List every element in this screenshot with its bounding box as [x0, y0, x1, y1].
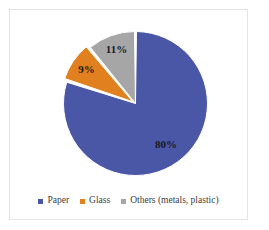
- pie-data-label-glass: 9%: [78, 63, 95, 75]
- pie-chart-figure: 80%9%11% Paper Glass Others (metals, pla…: [0, 0, 269, 230]
- pie-slice-group: [63, 32, 207, 176]
- legend-item-paper[interactable]: Paper: [38, 196, 69, 206]
- legend-label-paper: Paper: [47, 196, 69, 206]
- legend-label-glass: Glass: [89, 196, 110, 206]
- legend-swatch-glass: [80, 199, 85, 204]
- legend-item-glass[interactable]: Glass: [80, 196, 110, 206]
- legend-swatch-others: [121, 199, 126, 204]
- chart-legend: Paper Glass Others (metals, plastic): [9, 193, 248, 209]
- legend-item-others[interactable]: Others (metals, plastic): [121, 196, 218, 206]
- legend-swatch-paper: [38, 199, 43, 204]
- pie-data-label-others: 11%: [106, 43, 127, 55]
- pie-data-label-paper: 80%: [155, 138, 177, 150]
- legend-label-others: Others (metals, plastic): [130, 196, 218, 206]
